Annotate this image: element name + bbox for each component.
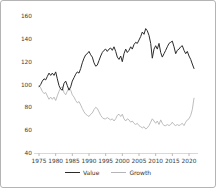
legend-label-value: Value	[83, 169, 99, 176]
y-tick-label: 60	[25, 127, 33, 133]
y-tick-label: 140	[21, 36, 32, 42]
value-line	[39, 29, 194, 91]
value-line-swatch	[65, 172, 80, 173]
chart-window: 1975198019851990199520002005201020152020…	[0, 0, 216, 188]
y-tick-label: 160	[21, 13, 32, 19]
x-tick-label: 2005	[132, 158, 147, 164]
growth-line-swatch	[111, 172, 126, 173]
x-tick-label: 1995	[98, 158, 113, 164]
line-chart: 1975198019851990199520002005201020152020…	[1, 1, 216, 188]
legend-item-value: Value	[65, 169, 99, 176]
x-tick-label: 1985	[65, 158, 80, 164]
y-tick-label: 80	[25, 104, 33, 110]
x-tick-label: 2000	[115, 158, 130, 164]
x-tick-label: 1990	[82, 158, 97, 164]
x-tick-label: 2020	[182, 158, 197, 164]
x-tick-label: 1975	[32, 158, 47, 164]
legend-item-growth: Growth	[111, 169, 151, 176]
x-tick-label: 2015	[165, 158, 180, 164]
growth-line	[39, 86, 194, 129]
y-tick-label: 120	[21, 59, 32, 65]
y-tick-label: 100	[21, 82, 32, 88]
chart-legend: Value Growth	[1, 169, 215, 176]
x-tick-label: 1980	[48, 158, 63, 164]
x-tick-label: 2010	[148, 158, 163, 164]
legend-label-growth: Growth	[129, 169, 151, 176]
y-tick-label: 40	[25, 150, 33, 156]
